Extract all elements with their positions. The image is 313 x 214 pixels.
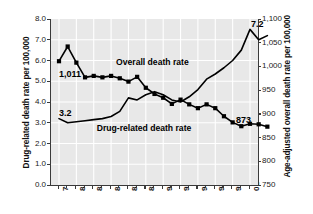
annotation-overall-start: 1,011 xyxy=(59,70,81,79)
x-axis-tick-mark xyxy=(240,186,241,188)
y-axis-left-tick-label: 4.0 xyxy=(35,98,46,106)
y-axis-right-tick-label: 750 xyxy=(262,181,275,189)
y-axis-right-tick-label: 1,000 xyxy=(262,62,282,70)
annotation-overall-end: 873 xyxy=(236,116,251,125)
x-axis-tick-mark xyxy=(118,186,119,188)
x-axis-tick-mark xyxy=(75,186,76,189)
annotation-drug-start: 3.2 xyxy=(59,109,72,118)
y-axis-left-tick-label: 6.0 xyxy=(35,57,46,65)
x-axis-tick-mark xyxy=(170,186,171,188)
y-axis-left-tick-label: 3.0 xyxy=(35,119,46,127)
x-axis-tick-mark xyxy=(58,186,59,189)
x-axis-tick-mark xyxy=(127,186,128,189)
x-axis-tick-mark xyxy=(162,186,163,189)
x-axis-tick-mark xyxy=(222,186,223,188)
series-label-overall-death-rate: Overall death rate xyxy=(116,58,189,67)
x-axis-tick-mark xyxy=(153,186,154,188)
y-axis-left-title: Drug-related death rate per 100,000 xyxy=(22,28,31,178)
y-axis-right-tick-label: 950 xyxy=(262,86,275,94)
x-axis-tick-mark xyxy=(110,186,111,189)
x-axis-tick-mark xyxy=(188,186,189,188)
y-axis-left-tick-label: 7.0 xyxy=(35,36,46,44)
chart-figure: Drug-related death rate per 100,000 Age-… xyxy=(0,0,313,214)
x-axis-tick-mark xyxy=(205,186,206,188)
x-axis-tick-mark xyxy=(249,186,250,189)
x-axis-tick-mark xyxy=(84,186,85,188)
y-axis-right-tick-label: 1,050 xyxy=(262,39,282,47)
y-axis-left-tick-label: 2.0 xyxy=(35,140,46,148)
x-axis-tick-mark xyxy=(66,186,67,188)
x-axis-tick-mark xyxy=(231,186,232,189)
x-axis-tick-mark xyxy=(136,186,137,188)
y-axis-left-tick-label: 1.0 xyxy=(35,160,46,168)
x-axis-tick-mark xyxy=(214,186,215,189)
data-series-layer xyxy=(51,19,258,185)
y-axis-right-tick-label: 800 xyxy=(262,157,275,165)
y-axis-left-tick-label: 0.0 xyxy=(35,181,46,189)
x-axis-tick-mark xyxy=(144,186,145,189)
annotation-drug-end: 7.2 xyxy=(251,20,264,29)
y-axis-left-tick-label: 5.0 xyxy=(35,77,46,85)
y-axis-left-tick-label: 8.0 xyxy=(35,15,46,23)
y-axis-right-tick-label: 850 xyxy=(262,134,275,142)
series-label-drug-related-death-rate: Drug-related death rate xyxy=(97,124,192,133)
y-axis-right-tick-label: 1,100 xyxy=(262,15,282,23)
y-axis-right-title: Age-adjusted overall death rate per 100,… xyxy=(283,28,292,178)
plot-area xyxy=(50,19,259,186)
x-axis-tick-mark xyxy=(101,186,102,188)
x-axis-tick-mark xyxy=(179,186,180,189)
x-axis-tick-mark xyxy=(92,186,93,189)
x-axis-tick-mark xyxy=(196,186,197,189)
y-axis-right-tick-label: 900 xyxy=(262,110,275,118)
